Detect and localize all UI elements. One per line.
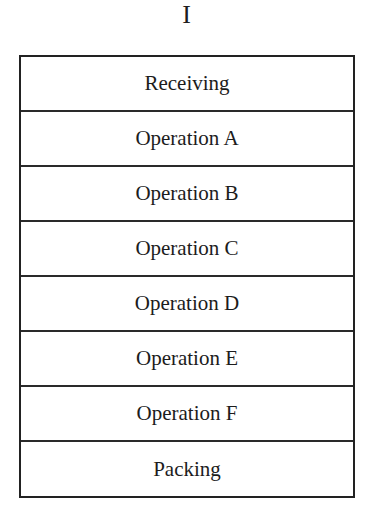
stage-operation-b: Operation B — [21, 167, 353, 222]
stage-operation-f: Operation F — [21, 387, 353, 442]
stage-operation-e: Operation E — [21, 332, 353, 387]
stage-packing: Packing — [21, 442, 353, 496]
stage-operation-d: Operation D — [21, 277, 353, 332]
stage-receiving: Receiving — [21, 57, 353, 112]
stage-operation-a: Operation A — [21, 112, 353, 167]
diagram-title: I — [0, 0, 373, 30]
process-stack: Receiving Operation A Operation B Operat… — [19, 55, 355, 498]
stage-operation-c: Operation C — [21, 222, 353, 277]
